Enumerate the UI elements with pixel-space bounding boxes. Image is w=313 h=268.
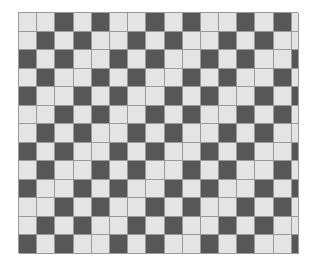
grid-cell-dark: [274, 106, 292, 125]
grid-cell-dark: [128, 161, 146, 180]
grid-cell-light: [183, 124, 201, 143]
grid-cell-light: [201, 161, 219, 180]
grid-cell-light: [292, 69, 299, 88]
grid-cell-dark: [183, 198, 201, 217]
grid-cell-dark: [74, 180, 92, 199]
grid-cell-dark: [201, 143, 219, 162]
grid-cell-dark: [219, 217, 237, 236]
grid-cell-dark: [165, 180, 183, 199]
grid-cell-light: [219, 143, 237, 162]
grid-cell-light: [219, 180, 237, 199]
grid-cell-light: [92, 87, 110, 106]
grid-cell-dark: [219, 32, 237, 51]
grid-cell-light: [292, 106, 299, 125]
grid-cell-light: [237, 32, 255, 51]
grid-cell-light: [165, 69, 183, 88]
grid-cell-dark: [165, 217, 183, 236]
grid-cell-light: [128, 180, 146, 199]
grid-cell-light: [274, 217, 292, 236]
grid-cell-dark: [19, 180, 37, 199]
grid-cell-light: [74, 50, 92, 69]
grid-cell-dark: [237, 13, 255, 32]
grid-cell-light: [201, 124, 219, 143]
grid-cell-dark: [165, 32, 183, 51]
grid-cell-dark: [110, 143, 128, 162]
grid-cell-light: [183, 32, 201, 51]
grid-cell-dark: [37, 217, 55, 236]
grid-cell-light: [219, 198, 237, 217]
grid-cell-light: [219, 235, 237, 254]
grid-cell-light: [146, 180, 164, 199]
grid-cell-light: [237, 87, 255, 106]
grid-cell-light: [146, 32, 164, 51]
grid-cell-dark: [19, 143, 37, 162]
grid-cell-dark: [165, 124, 183, 143]
grid-cell-light: [92, 32, 110, 51]
grid-cell-dark: [292, 235, 299, 254]
grid-cell-dark: [201, 180, 219, 199]
grid-cell-dark: [219, 161, 237, 180]
grid-cell-dark: [55, 106, 73, 125]
grid-cell-light: [55, 161, 73, 180]
grid-cell-light: [165, 13, 183, 32]
grid-cell-light: [165, 143, 183, 162]
grid-cell-light: [274, 124, 292, 143]
grid-cell-light: [183, 217, 201, 236]
grid-cell-light: [255, 106, 273, 125]
grid-cell-dark: [237, 106, 255, 125]
grid-cell-light: [128, 87, 146, 106]
grid-cell-dark: [37, 69, 55, 88]
grid-cell-light: [128, 50, 146, 69]
grid-cell-light: [183, 180, 201, 199]
grid-cell-light: [110, 198, 128, 217]
grid-cell-light: [292, 32, 299, 51]
grid-cell-dark: [146, 106, 164, 125]
grid-cell-dark: [110, 87, 128, 106]
grid-cell-light: [146, 87, 164, 106]
grid-cell-light: [201, 106, 219, 125]
grid-cell-dark: [55, 13, 73, 32]
grid-cell-light: [128, 235, 146, 254]
grid-cell-light: [255, 235, 273, 254]
grid-cell-dark: [146, 235, 164, 254]
grid-cell-light: [165, 161, 183, 180]
grid-cell-dark: [292, 180, 299, 199]
grid-cell-light: [165, 50, 183, 69]
grid-cell-light: [219, 50, 237, 69]
grid-cell-dark: [55, 50, 73, 69]
grid-cell-light: [201, 69, 219, 88]
grid-cell-dark: [274, 161, 292, 180]
grid-cell-dark: [292, 87, 299, 106]
grid-cell-light: [183, 235, 201, 254]
grid-cell-dark: [183, 13, 201, 32]
grid-cell-light: [19, 124, 37, 143]
grid-cell-dark: [255, 180, 273, 199]
grid-cell-light: [74, 198, 92, 217]
grid-cell-dark: [183, 161, 201, 180]
grid-cell-light: [19, 198, 37, 217]
grid-cell-light: [292, 13, 299, 32]
grid-cell-dark: [201, 235, 219, 254]
grid-cell-light: [92, 50, 110, 69]
grid-cell-light: [255, 143, 273, 162]
grid-cell-light: [183, 87, 201, 106]
grid-cell-light: [110, 69, 128, 88]
grid-cell-light: [274, 50, 292, 69]
grid-cell-dark: [183, 106, 201, 125]
grid-cell-light: [128, 13, 146, 32]
grid-cell-dark: [110, 235, 128, 254]
grid-cell-dark: [237, 143, 255, 162]
grid-cell-light: [110, 124, 128, 143]
grid-cell-dark: [292, 143, 299, 162]
grid-cell-dark: [92, 106, 110, 125]
grid-cell-dark: [92, 13, 110, 32]
grid-cell-light: [255, 161, 273, 180]
grid-cell-light: [37, 180, 55, 199]
grid-cell-dark: [165, 87, 183, 106]
grid-cell-light: [92, 235, 110, 254]
grid-cell-dark: [237, 50, 255, 69]
grid-cell-dark: [110, 50, 128, 69]
grid-cell-dark: [74, 87, 92, 106]
grid-cell-light: [37, 235, 55, 254]
grid-cell-dark: [201, 87, 219, 106]
